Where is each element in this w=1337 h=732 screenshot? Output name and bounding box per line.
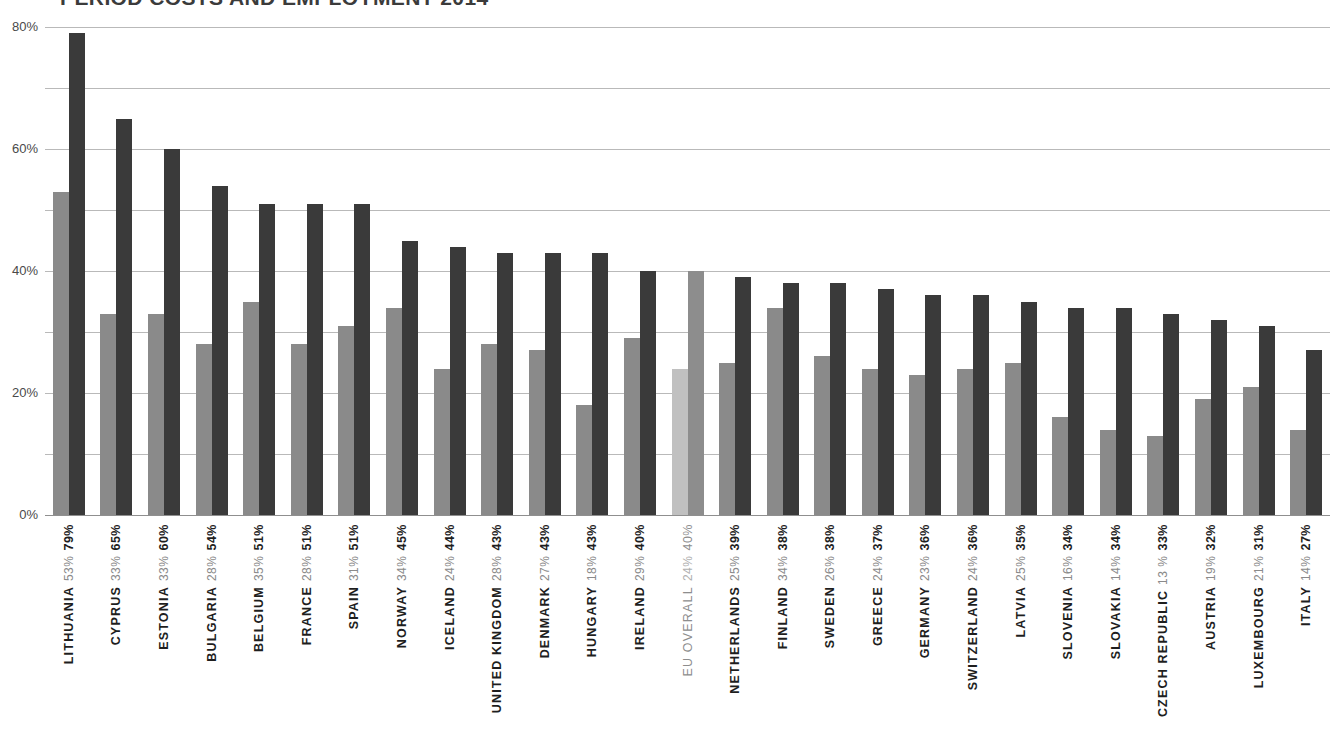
bar-group-czech-republic[interactable]: [1140, 27, 1188, 515]
bar-series1-italy[interactable]: [1290, 430, 1306, 515]
bar-group-netherlands[interactable]: [711, 27, 759, 515]
x-label-name-belgium: BELGIUM: [252, 586, 266, 652]
bar-group-slovakia[interactable]: [1092, 27, 1140, 515]
bar-group-bulgaria[interactable]: [188, 27, 236, 515]
bar-group-france[interactable]: [283, 27, 331, 515]
bar-series2-estonia[interactable]: [164, 149, 180, 515]
x-label-belgium: BELGIUM35%51%: [252, 524, 266, 652]
bar-series1-hungary[interactable]: [576, 405, 592, 515]
bar-group-ireland[interactable]: [616, 27, 664, 515]
bar-series2-france[interactable]: [307, 204, 323, 515]
bar-series2-slovakia[interactable]: [1116, 308, 1132, 515]
bar-group-italy[interactable]: [1282, 27, 1330, 515]
bar-series1-switzerland[interactable]: [957, 369, 973, 515]
x-label-value2-luxembourg: 31%: [1252, 524, 1266, 551]
bar-series1-eu-overall[interactable]: [672, 369, 688, 515]
x-label-value1-estonia: 33%: [157, 556, 171, 582]
bar-series1-norway[interactable]: [386, 308, 402, 515]
bar-series2-germany[interactable]: [925, 295, 941, 515]
x-label-cell-bulgaria: BULGARIA28%54%: [188, 520, 236, 725]
bar-series1-luxembourg[interactable]: [1243, 387, 1259, 515]
x-label-value1-bulgaria: 28%: [205, 556, 219, 582]
bar-series2-united-kingdom[interactable]: [497, 253, 513, 515]
bar-series2-luxembourg[interactable]: [1259, 326, 1275, 515]
bar-group-austria[interactable]: [1187, 27, 1235, 515]
bar-series2-cyprus[interactable]: [116, 119, 132, 516]
bar-group-estonia[interactable]: [140, 27, 188, 515]
bar-series2-netherlands[interactable]: [735, 277, 751, 515]
bar-series1-ireland[interactable]: [624, 338, 640, 515]
bar-group-sweden[interactable]: [807, 27, 855, 515]
x-label-name-netherlands: NETHERLANDS: [728, 586, 742, 694]
bar-series1-france[interactable]: [291, 344, 307, 515]
bar-series1-latvia[interactable]: [1005, 363, 1021, 516]
bar-series1-finland[interactable]: [767, 308, 783, 515]
bar-series2-slovenia[interactable]: [1068, 308, 1084, 515]
x-label-name-lithuania: LITHUANIA: [62, 586, 76, 664]
bar-series2-finland[interactable]: [783, 283, 799, 515]
bar-series2-belgium[interactable]: [259, 204, 275, 515]
bar-series1-austria[interactable]: [1195, 399, 1211, 515]
bar-series2-eu-overall[interactable]: [688, 271, 704, 515]
bar-series1-slovenia[interactable]: [1052, 417, 1068, 515]
bar-series1-united-kingdom[interactable]: [481, 344, 497, 515]
bar-series2-italy[interactable]: [1306, 350, 1322, 515]
bar-series1-netherlands[interactable]: [719, 363, 735, 516]
bar-group-lithuania[interactable]: [45, 27, 93, 515]
x-label-value1-belgium: 35%: [252, 556, 266, 582]
x-label-cell-ireland: IRELAND29%40%: [616, 520, 664, 725]
bar-group-germany[interactable]: [902, 27, 950, 515]
bar-series2-bulgaria[interactable]: [212, 186, 228, 515]
bar-group-cyprus[interactable]: [93, 27, 141, 515]
bar-group-united-kingdom[interactable]: [473, 27, 521, 515]
x-label-value2-bulgaria: 54%: [205, 524, 219, 551]
bar-series1-czech-republic[interactable]: [1147, 436, 1163, 515]
bar-series2-denmark[interactable]: [545, 253, 561, 515]
bar-series2-sweden[interactable]: [830, 283, 846, 515]
bar-group-spain[interactable]: [331, 27, 379, 515]
bar-series2-latvia[interactable]: [1021, 302, 1037, 516]
bar-group-greece[interactable]: [854, 27, 902, 515]
x-label-cell-lithuania: LITHUANIA53%79%: [45, 520, 93, 725]
bar-group-luxembourg[interactable]: [1235, 27, 1283, 515]
bar-series1-sweden[interactable]: [814, 356, 830, 515]
bar-series2-czech-republic[interactable]: [1163, 314, 1179, 515]
bar-group-switzerland[interactable]: [949, 27, 997, 515]
bar-series2-iceland[interactable]: [450, 247, 466, 515]
bar-series1-bulgaria[interactable]: [196, 344, 212, 515]
x-label-name-iceland: ICELAND: [443, 586, 457, 650]
bar-series1-spain[interactable]: [338, 326, 354, 515]
bar-series2-spain[interactable]: [354, 204, 370, 515]
bar-group-eu-overall[interactable]: [664, 27, 712, 515]
bar-series2-lithuania[interactable]: [69, 33, 85, 515]
x-label-value2-austria: 32%: [1204, 524, 1218, 551]
bar-series1-greece[interactable]: [862, 369, 878, 515]
x-label-cell-belgium: BELGIUM35%51%: [235, 520, 283, 725]
bar-group-denmark[interactable]: [521, 27, 569, 515]
bar-group-iceland[interactable]: [426, 27, 474, 515]
bar-series2-norway[interactable]: [402, 241, 418, 516]
bar-series1-slovakia[interactable]: [1100, 430, 1116, 515]
bar-series1-cyprus[interactable]: [100, 314, 116, 515]
bar-series2-hungary[interactable]: [592, 253, 608, 515]
bar-series1-denmark[interactable]: [529, 350, 545, 515]
bar-group-belgium[interactable]: [235, 27, 283, 515]
bar-group-hungary[interactable]: [569, 27, 617, 515]
x-label-name-austria: AUSTRIA: [1204, 586, 1218, 650]
bar-group-slovenia[interactable]: [1044, 27, 1092, 515]
bar-series1-iceland[interactable]: [434, 369, 450, 515]
bar-group-latvia[interactable]: [997, 27, 1045, 515]
bar-series1-estonia[interactable]: [148, 314, 164, 515]
bar-group-norway[interactable]: [378, 27, 426, 515]
y-tick-label-40: 40%: [0, 263, 38, 278]
x-label-value1-ireland: 29%: [633, 556, 647, 582]
bar-series2-ireland[interactable]: [640, 271, 656, 515]
bar-series2-austria[interactable]: [1211, 320, 1227, 515]
bar-series2-switzerland[interactable]: [973, 295, 989, 515]
bar-series1-belgium[interactable]: [243, 302, 259, 516]
bar-group-finland[interactable]: [759, 27, 807, 515]
chart-canvas: PERIOD COSTS AND EMPLOYMENT 2014 0%20%40…: [0, 0, 1337, 732]
bar-series1-germany[interactable]: [909, 375, 925, 515]
bar-series2-greece[interactable]: [878, 289, 894, 515]
bar-series1-lithuania[interactable]: [53, 192, 69, 515]
